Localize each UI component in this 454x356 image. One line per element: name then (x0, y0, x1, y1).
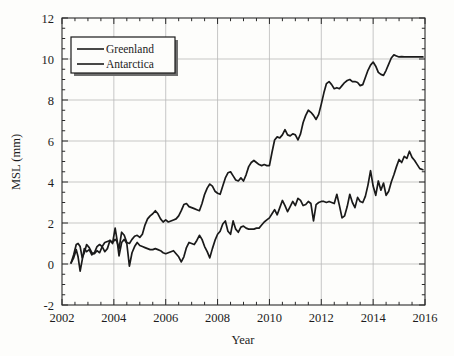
x-tick-label: 2006 (153, 311, 178, 325)
x-tick-label: 2002 (50, 311, 75, 325)
x-tick-label: 2014 (361, 311, 387, 325)
x-axis-title: Year (231, 333, 255, 347)
legend-label-greenland: Greenland (106, 43, 154, 55)
x-tick-label: 2010 (257, 311, 282, 325)
legend-label-antarctica: Antarctica (106, 58, 154, 70)
y-tick-label: -2 (44, 299, 54, 313)
y-tick-label: 12 (42, 12, 55, 26)
x-tick-label: 2004 (101, 311, 127, 325)
y-axis-title: MSL (mm) (9, 134, 23, 190)
msl-line-chart: 20022004200620082010201220142016 -202468… (0, 0, 454, 356)
x-tick-label: 2008 (205, 311, 230, 325)
chart-legend: Greenland Antarctica (71, 37, 178, 76)
y-tick-label: 8 (48, 94, 54, 108)
chart-figure: 20022004200620082010201220142016 -202468… (0, 0, 454, 356)
x-tick-label: 2016 (413, 311, 438, 325)
y-tick-label: 2 (48, 217, 54, 231)
y-tick-label: 10 (42, 53, 55, 67)
y-tick-label: 0 (48, 258, 54, 272)
x-tick-label: 2012 (309, 311, 334, 325)
y-tick-label: 6 (48, 135, 54, 149)
y-tick-label: 4 (48, 176, 55, 190)
